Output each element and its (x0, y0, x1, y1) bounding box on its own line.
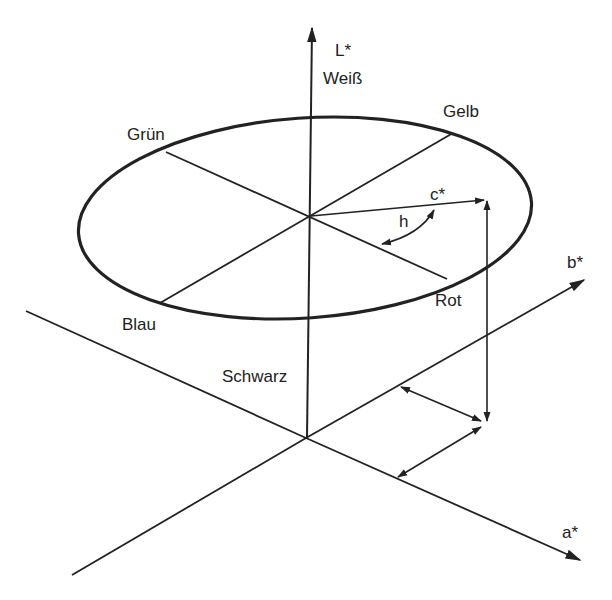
chroma-label: c* (430, 186, 445, 203)
l-axis-arrow (307, 28, 312, 438)
red-label: Rot (435, 292, 461, 309)
b-axis-negative-line (72, 438, 306, 575)
hue-label: h (399, 213, 408, 230)
a-axis-label: a* (562, 524, 578, 541)
green-label: Grün (127, 126, 165, 143)
b-component-double-arrow (401, 387, 481, 421)
black-label: Schwarz (222, 368, 287, 385)
a-axis-arrow (306, 438, 580, 560)
b-axis-label: b* (567, 254, 583, 271)
white-label: Weiß (323, 70, 362, 87)
lab-color-space-diagram (0, 0, 612, 600)
blue-yellow-diameter (160, 133, 453, 303)
l-axis-label: L* (335, 42, 351, 59)
yellow-label: Gelb (443, 103, 479, 120)
chroma-vector-arrow (311, 200, 484, 216)
a-component-double-arrow (398, 427, 481, 477)
blue-label: Blau (122, 316, 156, 333)
